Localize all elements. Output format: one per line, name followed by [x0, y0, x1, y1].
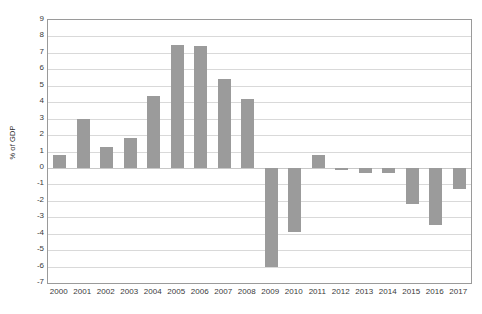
- bar: [288, 168, 301, 232]
- x-tick-label: 2000: [50, 288, 68, 296]
- x-tick-label: 2001: [73, 288, 91, 296]
- y-tick-label: -3: [37, 212, 44, 220]
- y-tick-label: 8: [40, 31, 44, 39]
- x-tick-label: 2002: [97, 288, 115, 296]
- x-tick-label: 2015: [402, 288, 420, 296]
- x-tick-label: 2003: [120, 288, 138, 296]
- y-axis-title-label: % of GDP: [8, 125, 17, 159]
- x-tick-label: 2007: [214, 288, 232, 296]
- x-tick-label: 2017: [449, 288, 467, 296]
- bar: [218, 79, 231, 168]
- x-tick-label: 2008: [238, 288, 256, 296]
- y-tick-label: -6: [37, 262, 44, 270]
- y-axis-title: % of GDP: [2, 0, 22, 285]
- bar: [335, 168, 348, 170]
- bar-chart-figure: % of GDP 9876543210-1-2-3-4-5-6-7 200020…: [0, 0, 482, 314]
- bar: [312, 155, 325, 168]
- bar: [359, 168, 372, 173]
- bar: [406, 168, 419, 204]
- x-tick-label: 2013: [355, 288, 373, 296]
- bar: [171, 45, 184, 168]
- bars-series: [48, 20, 471, 283]
- y-tick-label: 6: [40, 64, 44, 72]
- bar: [453, 168, 466, 189]
- x-tick-label: 2010: [285, 288, 303, 296]
- x-tick-label: 2009: [261, 288, 279, 296]
- x-tick-label: 2011: [309, 288, 326, 296]
- y-tick-label: 5: [40, 81, 44, 89]
- plot-area: [47, 19, 472, 284]
- y-tick-label: 9: [40, 15, 44, 23]
- y-tick-label: 1: [40, 147, 44, 155]
- y-tick-label: 0: [40, 163, 44, 171]
- y-tick-label: -2: [37, 196, 44, 204]
- bar: [100, 147, 113, 168]
- y-tick-label: 7: [40, 48, 44, 56]
- x-tick-label: 2012: [332, 288, 350, 296]
- y-tick-label: 2: [40, 130, 44, 138]
- x-tick-label: 2006: [191, 288, 209, 296]
- x-tick-label: 2004: [144, 288, 162, 296]
- bar: [265, 168, 278, 267]
- bar: [194, 46, 207, 168]
- y-tick-label: -7: [37, 278, 44, 286]
- gridline: [48, 283, 471, 284]
- bar: [429, 168, 442, 226]
- bar: [124, 138, 137, 168]
- bar: [382, 168, 395, 173]
- x-axis-tick-labels: 2000200120022003200420052006200720082009…: [47, 288, 472, 304]
- x-tick-label: 2005: [167, 288, 185, 296]
- bar: [53, 155, 66, 168]
- bar: [241, 99, 254, 168]
- y-tick-label: -4: [37, 229, 44, 237]
- y-tick-label: -1: [37, 179, 44, 187]
- y-tick-label: -5: [37, 245, 44, 253]
- x-tick-label: 2016: [426, 288, 444, 296]
- y-tick-label: 3: [40, 114, 44, 122]
- y-axis-tick-labels: 9876543210-1-2-3-4-5-6-7: [22, 14, 44, 285]
- y-tick-label: 4: [40, 97, 44, 105]
- bar: [77, 119, 90, 168]
- x-tick-label: 2014: [379, 288, 397, 296]
- bar: [147, 96, 160, 168]
